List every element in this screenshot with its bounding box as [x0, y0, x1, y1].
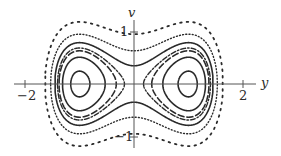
x-tick-label-neg2: −2: [17, 89, 36, 102]
y-tick-label-neg1: −1: [114, 130, 133, 143]
x-tick-label-pos2: 2: [239, 89, 247, 102]
vertical-axis-label: v: [128, 6, 135, 19]
phase-portrait-plot: [0, 0, 281, 156]
horizontal-axis-label: y: [261, 76, 268, 89]
y-tick-label-pos1: 1: [120, 25, 128, 38]
axes: [14, 20, 256, 148]
